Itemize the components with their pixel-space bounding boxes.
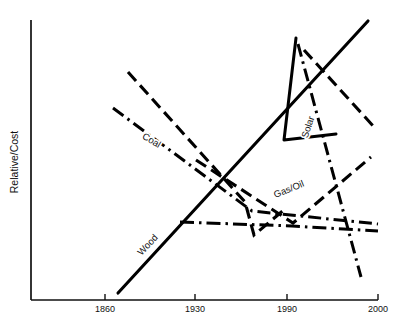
- energy-relative-cost-chart: 1860 1930 1990 2000 Relative/Cost Coal C…: [0, 0, 398, 328]
- x-tick-label-1930: 1930: [185, 304, 205, 314]
- chart-background: [0, 0, 398, 328]
- x-tick-label-2000: 2000: [368, 304, 388, 314]
- x-tick-label-1990: 1990: [277, 304, 297, 314]
- x-tick-label-1860: 1860: [95, 304, 115, 314]
- y-axis-title: Relative/Cost: [8, 131, 20, 194]
- chart-figure: 1860 1930 1990 2000 Relative/Cost Coal C…: [0, 0, 398, 328]
